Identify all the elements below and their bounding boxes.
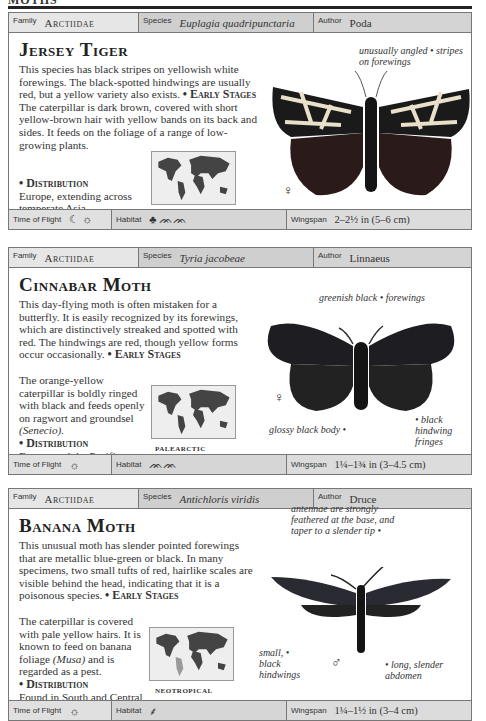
species-label: Species (143, 16, 171, 25)
time-of-flight-label: Time of Flight (13, 706, 61, 715)
tree-grass-icon: ♣ ᨏᨏ (149, 213, 187, 226)
habitat-cell: Habitatᨏᨏ (112, 455, 287, 474)
family-value: Arctiidae (45, 17, 95, 29)
wingspan-value: 1¼–1½ in (3–4 cm) (335, 705, 418, 716)
habitat-label: Habitat (116, 460, 141, 469)
region-label: PALEARCTIC (155, 445, 206, 453)
world-map (149, 627, 234, 681)
sun-icon: ☼ (69, 459, 79, 471)
species-title: Banana Moth (19, 515, 136, 537)
annotation-hindwings: small, • black hindwings (259, 647, 307, 680)
species-cell: SpeciesEuplagia quadripunctaria (139, 13, 314, 32)
grass-icon: ᨏᨏ (149, 458, 177, 471)
moth-illustration-cinnabar (261, 316, 461, 426)
wingspan-label: Wingspan (291, 460, 327, 469)
time-of-flight-label: Time of Flight (13, 215, 61, 224)
distribution-heading: • Distribution (19, 436, 88, 450)
species-value: Euplagia quadripunctaria (179, 17, 294, 29)
author-cell: AuthorPoda (314, 13, 471, 32)
early-stages-text: The orange-yellow caterpillar is boldly … (19, 374, 145, 424)
early-stages-italic: (Musa) (53, 653, 85, 665)
sex-symbol: ♀ (274, 390, 285, 406)
annotation-antennae: antennae are strongly feathered at the b… (291, 503, 406, 536)
distribution-heading: • Distribution (19, 677, 88, 691)
wingspan-cell: Wingspan1¼–1½ in (3–4 cm) (287, 701, 471, 720)
description: This species has black stripes on yellow… (19, 63, 257, 151)
world-map (151, 385, 236, 439)
time-of-flight-label: Time of Flight (13, 460, 61, 469)
sun-icon: ☼ (69, 705, 79, 717)
species-title: Jersey Tiger (19, 39, 128, 61)
habitat-label: Habitat (116, 215, 141, 224)
early-stages-italic: (Senecio). (19, 424, 64, 436)
description: This day-flying moth is often mistaken f… (19, 298, 257, 361)
annotation-stripes: unusually angled • stripes on forewings (359, 45, 471, 67)
author-label: Author (318, 251, 342, 260)
author-label: Author (318, 492, 342, 501)
species-title: Cinnabar Moth (19, 274, 151, 296)
author-value: Poda (350, 17, 372, 29)
world-map (151, 151, 236, 205)
species-cell: SpeciesAntichloris viridis (139, 489, 314, 508)
wingspan-cell: Wingspan2–2½ in (5–6 cm) (287, 210, 471, 229)
wingspan-value: 2–2½ in (5–6 cm) (335, 214, 410, 225)
family-value: Arctiidae (45, 252, 95, 264)
annotation-forewings: greenish black • forewings (319, 292, 425, 303)
annotation-abdomen: • long, slender abdomen (385, 659, 465, 681)
annotation-body: glossy black body • (269, 424, 346, 435)
early-stages-text: The caterpillar is dark brown, covered w… (19, 101, 257, 151)
banana-leaf-icon: ⸙ (149, 703, 157, 718)
time-of-flight-cell: Time of Flight☼ (9, 455, 112, 474)
family-label: Family (13, 251, 37, 260)
sex-symbol: ♀ (283, 183, 294, 199)
species-cell: SpeciesTyria jacobeae (139, 248, 314, 267)
time-of-flight-cell: Time of Flight☾ ☼ (9, 210, 112, 229)
species-label: Species (143, 251, 171, 260)
family-label: Family (13, 492, 37, 501)
early-stages-heading: • Early Stages (107, 347, 180, 361)
top-rule (8, 6, 472, 9)
wingspan-cell: Wingspan1¼–1¾ in (3–4.5 cm) (287, 455, 471, 474)
author-cell: AuthorLinnaeus (314, 248, 471, 267)
time-of-flight-cell: Time of Flight☼ (9, 701, 112, 720)
region-label: NEOTROPICAL (155, 687, 213, 695)
species-label: Species (143, 492, 171, 501)
author-value: Linnaeus (350, 252, 390, 264)
early-stages-heading: • Early Stages (183, 87, 256, 101)
author-label: Author (318, 16, 342, 25)
early-stages-heading: • Early Stages (105, 588, 178, 602)
species-value: Antichloris viridis (179, 493, 259, 505)
family-cell: FamilyArctiidae (9, 13, 139, 32)
wingspan-value: 1¼–1¾ in (3–4.5 cm) (335, 459, 426, 470)
annotation-hindwing-fringes: • black hindwing fringes (415, 414, 467, 447)
description: This unusual moth has slender pointed fo… (19, 539, 257, 602)
family-cell: FamilyArctiidae (9, 248, 139, 267)
habitat-label: Habitat (116, 706, 141, 715)
wingspan-label: Wingspan (291, 215, 327, 224)
species-card-cinnabar-moth: FamilyArctiidae SpeciesTyria jacobeae Au… (8, 247, 472, 475)
family-value: Arctiidae (45, 493, 95, 505)
wingspan-label: Wingspan (291, 706, 327, 715)
moth-illustration-banana (271, 567, 451, 657)
card-footer: Time of Flight☾ ☼ Habitat♣ ᨏᨏ Wingspan2–… (9, 209, 471, 229)
card-footer: Time of Flight☼ Habitatᨏᨏ Wingspan1¼–1¾ … (9, 454, 471, 474)
card-header: FamilyArctiidae SpeciesTyria jacobeae Au… (9, 248, 471, 268)
habitat-cell: Habitat♣ ᨏᨏ (112, 210, 287, 229)
distribution-heading: • Distribution (19, 176, 88, 190)
species-value: Tyria jacobeae (179, 252, 244, 264)
species-card-jersey-tiger: FamilyArctiidae SpeciesEuplagia quadripu… (8, 12, 472, 230)
habitat-cell: Habitat⸙ (112, 701, 287, 720)
species-card-banana-moth: FamilyArctiidae SpeciesAntichloris virid… (8, 488, 472, 721)
family-cell: FamilyArctiidae (9, 489, 139, 508)
moon-sun-icon: ☾ ☼ (69, 213, 92, 226)
sex-symbol: ♂ (331, 655, 342, 671)
card-footer: Time of Flight☼ Habitat⸙ Wingspan1¼–1½ i… (9, 700, 471, 720)
family-label: Family (13, 16, 37, 25)
card-header: FamilyArctiidae SpeciesEuplagia quadripu… (9, 13, 471, 33)
moth-illustration-jersey-tiger (271, 67, 471, 207)
